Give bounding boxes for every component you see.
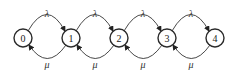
mu-label: μ [187,59,193,70]
state-node-4: 4 [206,29,224,47]
mu-arc [173,45,210,59]
node-label: 4 [213,33,218,44]
lambda-label: λ [188,8,194,19]
mu-arc [29,45,66,59]
lambda-label: λ [44,8,50,19]
mu-label: μ [139,59,145,70]
node-label: 0 [21,33,26,44]
state-node-2: 2 [110,29,128,47]
lambda-label: λ [92,8,98,19]
mu-label: μ [43,59,49,70]
state-node-3: 3 [158,29,176,47]
node-label: 2 [117,33,122,44]
mu-label: μ [91,59,97,70]
mu-arc [77,45,114,59]
state-node-1: 1 [62,29,80,47]
mu-arc [125,45,162,59]
forward-edges: λλλλ [28,8,209,32]
state-diagram: λλλλ μμμμ 01234 [0,0,237,73]
node-label: 1 [69,33,74,44]
state-nodes: 01234 [14,29,224,47]
lambda-label: λ [140,8,146,19]
node-label: 3 [165,33,170,44]
backward-edges: μμμμ [29,45,210,70]
state-node-0: 0 [14,29,32,47]
